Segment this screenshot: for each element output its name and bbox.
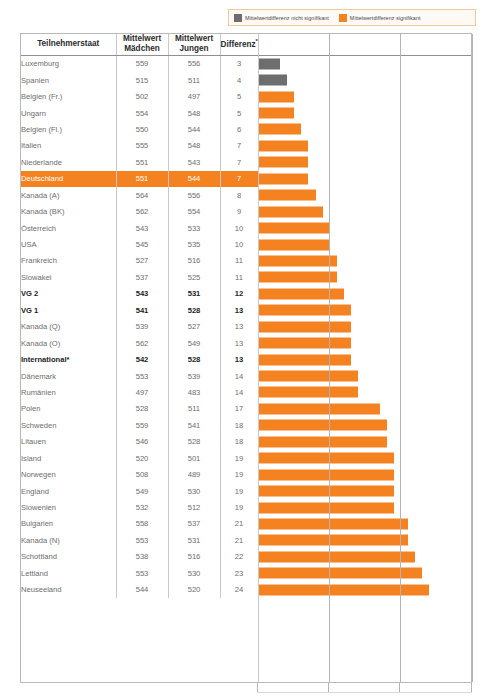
cell-state: Slowakei [21,269,116,285]
table-row[interactable]: Litauen54652818 [21,434,471,450]
bar [259,288,344,299]
axis-tick [257,683,258,692]
cell-boys: 543 [168,154,220,170]
cell-girls: 564 [116,187,168,203]
bar [259,354,352,365]
cell-boys: 556 [168,55,220,72]
table-row[interactable]: Deutschland5515447 [21,171,471,187]
cell-girls: 528 [116,401,168,417]
bar [259,338,352,349]
cell-bar-chart [258,368,471,384]
column-header-state: Teilnehmerstaat [21,34,116,55]
table-row[interactable]: Kanada (Q)53952713 [21,319,471,335]
bar [259,91,295,102]
cell-diff: 3 [220,55,258,72]
table-row[interactable]: Rumänien49748314 [21,384,471,400]
table-row[interactable]: Lettland55353023 [21,565,471,581]
cell-state: Belgien (Fl.) [21,121,116,137]
bar [259,272,337,283]
bar [259,420,387,431]
table-row[interactable]: Island52050119 [21,450,471,466]
cell-state: Rumänien [21,384,116,400]
table-row[interactable]: VG 154152813 [21,302,471,318]
table-row[interactable]: Frankreich52751611 [21,253,471,269]
cell-girls: 502 [116,88,168,104]
table-row[interactable]: England54953019 [21,483,471,499]
cell-boys: 544 [168,121,220,137]
cell-boys: 548 [168,105,220,121]
table-row[interactable]: Italien5555487 [21,138,471,154]
cell-boys: 549 [168,335,220,351]
table-row[interactable]: Schottland53851622 [21,549,471,565]
bar [259,108,295,119]
table-row[interactable]: Kanada (O)56254913 [21,335,471,351]
cell-state: Neuseeland [21,582,116,598]
cell-girls: 546 [116,434,168,450]
table-row[interactable]: USA54553510 [21,236,471,252]
cell-boys: 511 [168,72,220,88]
cell-diff: 17 [220,401,258,417]
cell-girls: 553 [116,565,168,581]
table-row[interactable]: Ungarn5545485 [21,105,471,121]
cell-boys: 527 [168,319,220,335]
table-row[interactable]: Belgien (Fr.)5024975 [21,88,471,104]
cell-boys: 535 [168,236,220,252]
table-row[interactable]: Luxemburg5595563 [21,55,471,72]
cell-diff: 5 [220,88,258,104]
cell-diff: 18 [220,434,258,450]
table-row[interactable]: Kanada (N)55353121 [21,532,471,548]
cell-boys: 554 [168,203,220,219]
cell-state: VG 1 [21,302,116,318]
column-header-chart [258,34,471,55]
cell-diff: 13 [220,302,258,318]
table-row[interactable]: Belgien (Fl.)5505446 [21,121,471,137]
table-row[interactable]: Kanada (A)5645568 [21,187,471,203]
cell-girls: 551 [116,154,168,170]
cell-bar-chart [258,138,471,154]
column-header-difference: Differenz** [220,34,258,55]
cell-bar-chart [258,582,471,598]
table-row[interactable]: Norwegen50848919 [21,466,471,482]
cell-bar-chart [258,269,471,285]
cell-diff: 13 [220,335,258,351]
cell-boys: 497 [168,88,220,104]
bar [259,140,309,151]
table-row[interactable]: Niederlande5515437 [21,154,471,170]
chart-baseline [257,692,472,693]
table-row[interactable]: International*54252813 [21,351,471,367]
table-row[interactable]: Spanien5155114 [21,72,471,88]
table-row[interactable]: Kanada (BK)5625549 [21,203,471,219]
cell-diff: 21 [220,516,258,532]
cell-bar-chart [258,351,471,367]
bar [259,75,288,86]
cell-state: Deutschland [21,171,116,187]
cell-bar-chart [258,171,471,187]
cell-state: Österreich [21,220,116,236]
table-row[interactable]: Bulgarien55853721 [21,516,471,532]
table-row[interactable]: Slowenien53251219 [21,499,471,515]
table-row[interactable]: Slowakei53752511 [21,269,471,285]
table-row[interactable]: Neuseeland54452024 [21,582,471,598]
cell-diff: 19 [220,483,258,499]
table-row[interactable]: VG 254353112 [21,286,471,302]
bar [259,469,394,480]
bar [259,321,352,332]
cell-boys: 516 [168,253,220,269]
cell-boys: 525 [168,269,220,285]
table-row[interactable]: Österreich54353310 [21,220,471,236]
bar [259,518,409,529]
cell-bar-chart [258,55,471,72]
cell-boys: 489 [168,466,220,482]
cell-boys: 531 [168,532,220,548]
cell-boys: 528 [168,434,220,450]
cell-state: Kanada (BK) [21,203,116,219]
cell-bar-chart [258,203,471,219]
cell-state: England [21,483,116,499]
table-row[interactable]: Polen52851117 [21,401,471,417]
cell-bar-chart [258,532,471,548]
cell-state: Bulgarien [21,516,116,532]
table-row[interactable]: Dänemark55353914 [21,368,471,384]
legend-label-significant: Mittelwertdifferenz signifikant [350,15,421,21]
table-row[interactable]: Schweden55954118 [21,417,471,433]
cell-state: Island [21,450,116,466]
